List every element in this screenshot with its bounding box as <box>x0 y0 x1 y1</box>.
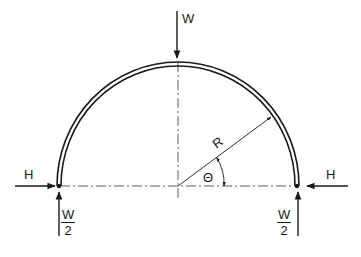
left-reaction-label: W 2 <box>61 208 75 237</box>
angle-label: Θ <box>203 171 213 184</box>
diagram-canvas <box>0 0 361 257</box>
right-h-label: H <box>326 168 335 181</box>
right-reaction-label: W 2 <box>277 208 291 237</box>
centerlines <box>60 62 296 198</box>
left-reaction-denominator: 2 <box>61 223 75 237</box>
top-load-label: W <box>182 12 194 25</box>
right-reaction-denominator: 2 <box>277 223 291 237</box>
right-support-point <box>295 184 299 188</box>
left-support-point <box>57 184 61 188</box>
left-reaction-numerator: W <box>61 208 75 223</box>
left-h-label: H <box>24 168 33 181</box>
angle-arc <box>217 158 225 187</box>
radius-line <box>178 117 271 186</box>
right-reaction-numerator: W <box>277 208 291 223</box>
arch-diagram: W H H R Θ W 2 W 2 <box>0 0 361 257</box>
